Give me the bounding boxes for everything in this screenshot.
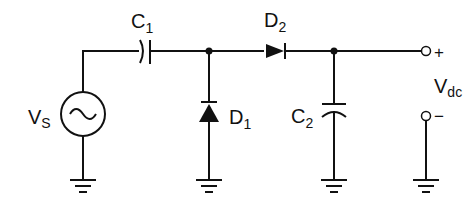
output-terminal-minus [422,112,431,121]
plus-label: + [434,43,444,62]
ac-source-icon [61,92,105,136]
vdc-label: Vdc [434,75,462,100]
voltage-doubler-circuit: VS C1 D1 D2 C2 + − Vdc [0,0,474,204]
diode-d2-icon [266,43,285,59]
capacitor-c1-icon [140,40,150,64]
ground-icon [321,180,347,192]
c2-label: C2 [291,105,313,131]
c1-label: C1 [131,10,153,36]
ground-icon [196,180,222,192]
ground-icon [413,180,439,192]
wire-source-to-c1 [83,51,139,92]
minus-label: − [434,107,444,126]
diode-d1-icon [199,102,219,122]
d2-label: D2 [264,9,286,35]
output-terminal-plus [422,47,431,56]
ground-icon [70,180,96,192]
d1-label: D1 [229,106,251,132]
source-label: VS [28,106,51,131]
